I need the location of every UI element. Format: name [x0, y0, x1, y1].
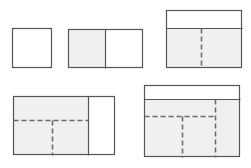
- rectangle-band-with-dashed-split-shaded-region-1: [166, 28, 242, 68]
- plain-square: [13, 29, 52, 68]
- rectangle-band-with-dashed-split: [166, 11, 243, 69]
- rectangle-two-cells: [68, 29, 143, 69]
- rectangle-band-with-three-dashed-splits: [144, 86, 241, 158]
- geometry-figure-group: [0, 0, 251, 168]
- rectangle-band-with-three-dashed-splits-shaded-region-1: [144, 99, 240, 157]
- figure-canvas: [0, 0, 251, 168]
- rectangle-two-cells-shaded-region-1: [68, 29, 105, 68]
- rectangle-shaded-left-with-tee-dashed-shaded-region-1: [13, 96, 88, 155]
- plain-square-outline: [13, 29, 52, 68]
- rectangle-shaded-left-with-tee-dashed: [13, 96, 115, 156]
